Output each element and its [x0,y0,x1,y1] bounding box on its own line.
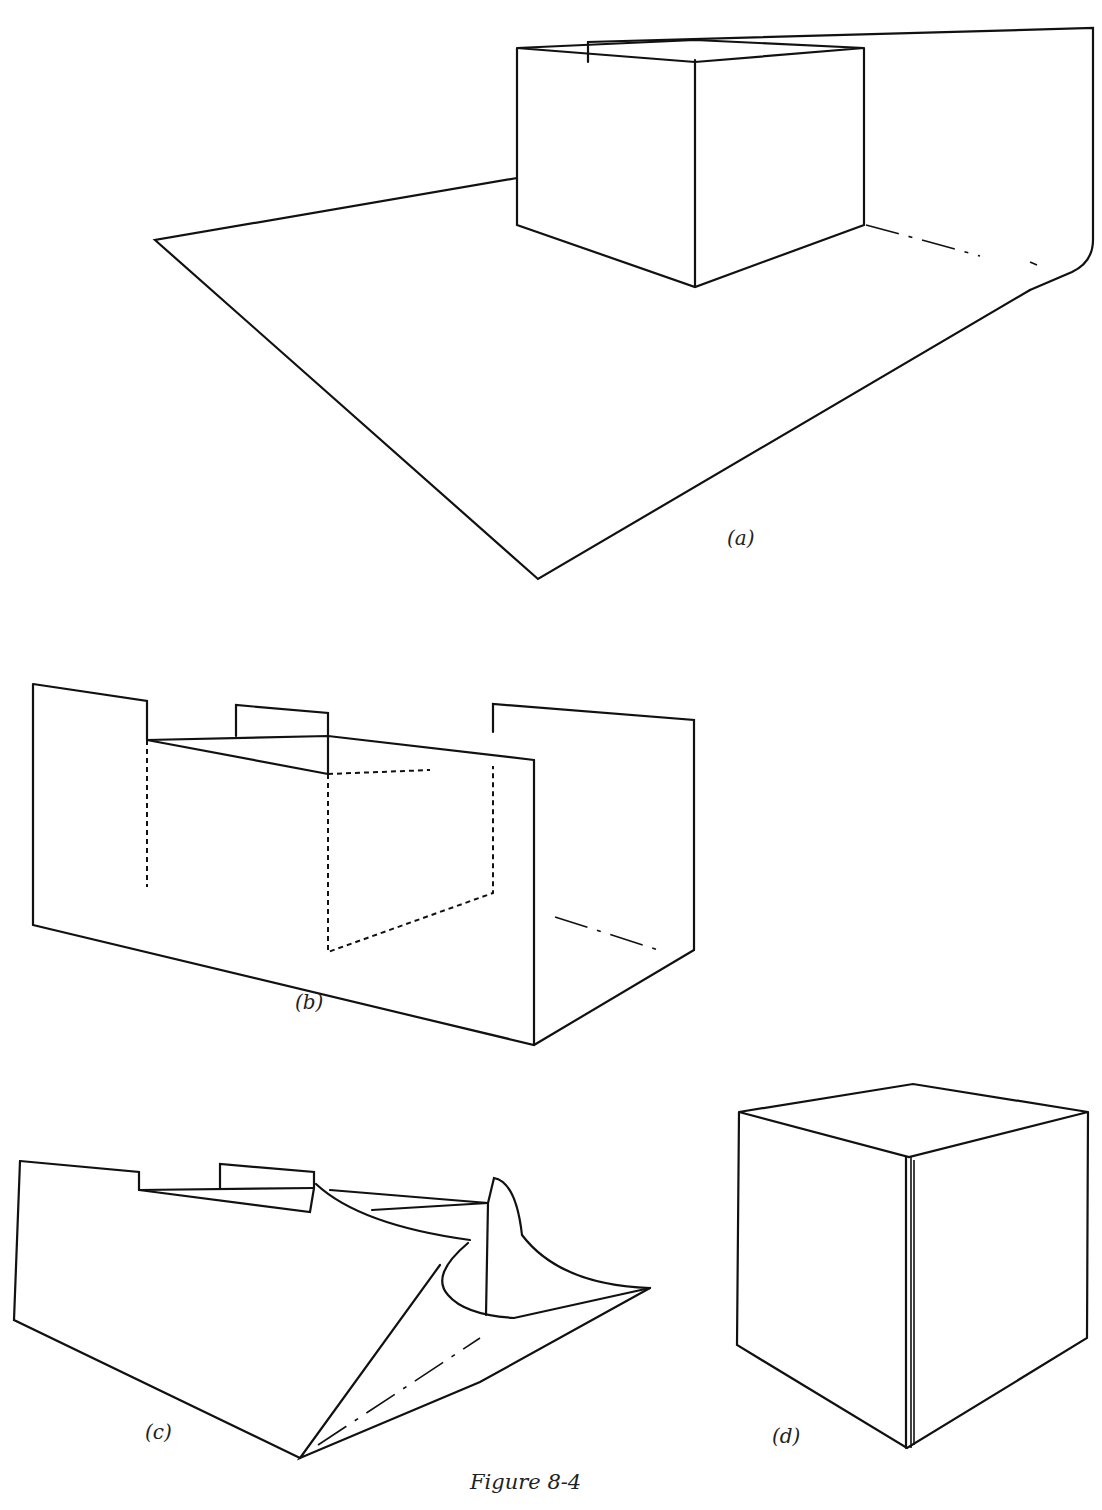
panel-b-drawing [33,684,694,1045]
panel-a-drawing [155,28,1093,579]
panel-b-label: (b) [295,990,323,1014]
panel-d-label: (d) [772,1424,800,1448]
panel-c-label: (c) [145,1420,172,1444]
panel-c-drawing [14,1161,650,1458]
panel-a-label: (a) [727,526,755,550]
figure-drawing [0,0,1102,1510]
figure-caption: Figure 8-4 [470,1470,581,1494]
panel-d-drawing [737,1084,1088,1448]
